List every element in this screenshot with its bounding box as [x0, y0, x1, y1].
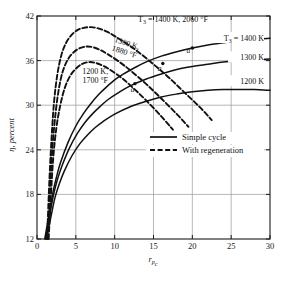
point-label-a: a: [131, 85, 135, 94]
y-tick-label: 12: [26, 234, 35, 244]
x-tick-label: 30: [266, 241, 275, 251]
gas-turbine-efficiency-chart: 051015202530121824303642 T3 = 1400 K, 20…: [0, 0, 286, 281]
x-tick-label: 20: [188, 241, 197, 251]
y-tick-label: 42: [26, 11, 35, 21]
right-temperature-label: 1200 K: [240, 77, 264, 86]
x-tick-label: 10: [110, 241, 119, 251]
point-label-a: a: [187, 46, 191, 55]
right-temperature-label: 1300 K: [240, 53, 264, 62]
x-tick-label: 25: [227, 241, 236, 251]
curve-temperature-label: 1200 K,1700 °F: [82, 67, 108, 85]
y-axis-title: η, percent: [6, 118, 16, 152]
x-axis-subscript2: c: [155, 261, 158, 267]
intersection-marker: [161, 62, 164, 65]
x-tick-label: 0: [35, 241, 39, 251]
y-tick-label: 18: [26, 189, 35, 199]
legend-label: Simple cycle: [182, 132, 226, 142]
temp-fahrenheit: 1700 °F: [82, 76, 108, 85]
temp-value: = 1400 K, 2060 °F: [146, 15, 208, 24]
temp-value: = 1400 K: [232, 34, 265, 43]
curve-temperature-label: T3 = 1400 K, 2060 °F: [138, 15, 208, 25]
intersection-marker: [191, 46, 194, 49]
x-tick-label: 5: [74, 241, 78, 251]
point-label-a: a: [158, 64, 162, 73]
x-tick-label: 15: [149, 241, 158, 251]
y-tick-label: 24: [26, 145, 35, 155]
y-tick-label: 30: [26, 100, 35, 110]
temp-kelvin: 1200 K,: [82, 67, 108, 76]
y-tick-label: 36: [26, 56, 35, 66]
legend-label: With regeneration: [182, 145, 244, 155]
chart-canvas: 051015202530121824303642 T3 = 1400 K, 20…: [0, 0, 286, 281]
